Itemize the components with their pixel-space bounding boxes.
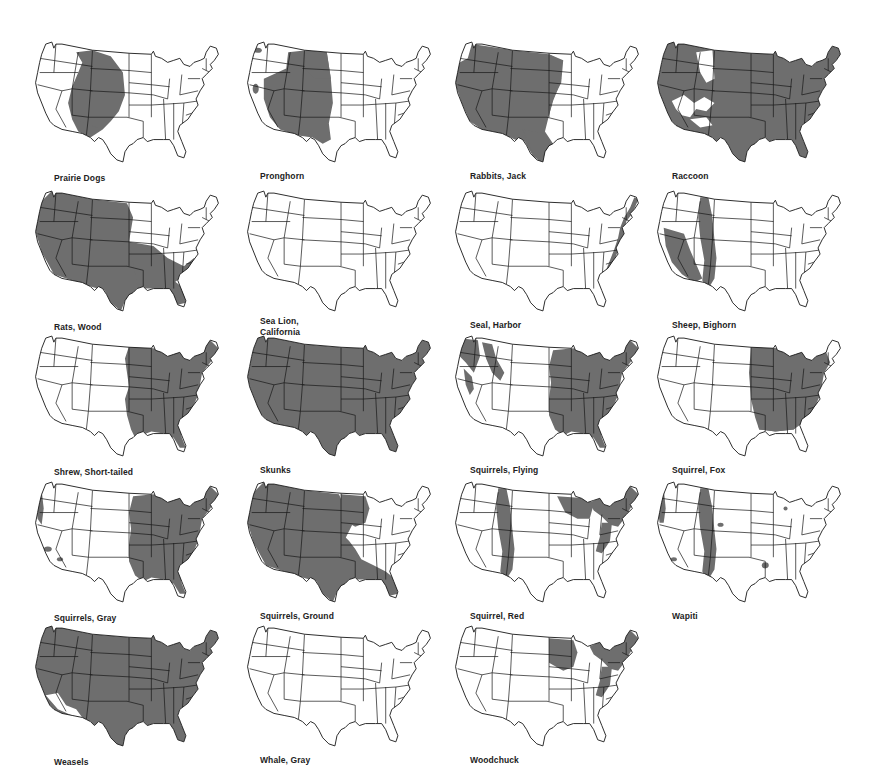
us-map xyxy=(240,478,440,608)
us-map xyxy=(650,478,850,608)
range-map-11: Squirrels, Flying xyxy=(448,332,648,482)
us-map xyxy=(28,622,228,752)
us-map xyxy=(240,187,440,317)
map-caption: Squirrel, Fox xyxy=(672,465,725,476)
us-map xyxy=(28,478,228,608)
us-map xyxy=(650,38,850,168)
range-map-1: Prairie Dogs xyxy=(28,38,228,188)
map-caption: Seal, Harbor xyxy=(470,320,521,331)
range-map-8: Sheep, Bighorn xyxy=(650,187,850,337)
us-map xyxy=(448,332,648,462)
us-map xyxy=(650,187,850,317)
map-caption: Squirrels, Ground xyxy=(260,611,334,622)
range-map-2: Pronghorn xyxy=(240,38,440,188)
range-map-10: Skunks xyxy=(240,332,440,482)
range-area-ca-spot xyxy=(253,84,259,94)
range-shading xyxy=(125,340,218,448)
us-map xyxy=(448,187,648,317)
range-map-5: Rats, Wood xyxy=(28,187,228,337)
range-map-17: Weasels xyxy=(28,622,228,766)
map-caption: Pronghorn xyxy=(260,171,304,182)
range-area-scattered-spots xyxy=(784,506,788,510)
map-caption: Raccoon xyxy=(672,171,709,182)
map-caption: Prairie Dogs xyxy=(54,173,105,184)
range-map-4: Raccoon xyxy=(650,38,850,188)
map-caption: Whale, Gray xyxy=(260,755,310,766)
us-map xyxy=(28,332,228,462)
range-map-3: Rabbits, Jack xyxy=(448,38,648,188)
map-caption: Weasels xyxy=(54,757,89,766)
us-map xyxy=(240,332,440,462)
range-map-13: Squirrels, Gray xyxy=(28,478,228,628)
map-caption-line: Sea Lion, xyxy=(260,316,300,327)
us-map xyxy=(448,622,648,752)
map-caption: Wapiti xyxy=(672,611,698,622)
map-caption: Squirrel, Red xyxy=(470,611,524,622)
map-caption: Shrew, Short-tailed xyxy=(54,467,133,478)
range-area-scattered-spots xyxy=(718,523,724,527)
us-map xyxy=(28,187,228,317)
map-caption: Sheep, Bighorn xyxy=(672,320,736,331)
us-map xyxy=(28,38,228,168)
us-map xyxy=(448,38,648,168)
range-map-16: Wapiti xyxy=(650,478,850,628)
map-caption: Skunks xyxy=(260,465,291,476)
range-map-9: Shrew, Short-tailed xyxy=(28,332,228,482)
us-map xyxy=(240,622,440,752)
range-map-6: Sea Lion,California xyxy=(240,187,440,337)
range-map-18: Whale, Gray xyxy=(240,622,440,766)
range-map-15: Squirrel, Red xyxy=(448,478,648,628)
range-map-7: Seal, Harbor xyxy=(448,187,648,337)
map-caption: Woodchuck xyxy=(470,755,519,766)
us-map xyxy=(650,332,850,462)
range-map-19: Woodchuck xyxy=(448,622,648,766)
map-caption: Squirrels, Flying xyxy=(470,465,538,476)
range-map-12: Squirrel, Fox xyxy=(650,332,850,482)
range-map-14: Squirrels, Ground xyxy=(240,478,440,628)
us-map xyxy=(240,38,440,168)
map-caption: Rabbits, Jack xyxy=(470,171,526,182)
range-shading xyxy=(749,346,830,431)
range-area-east-of-plains xyxy=(125,340,218,448)
us-map xyxy=(448,478,648,608)
